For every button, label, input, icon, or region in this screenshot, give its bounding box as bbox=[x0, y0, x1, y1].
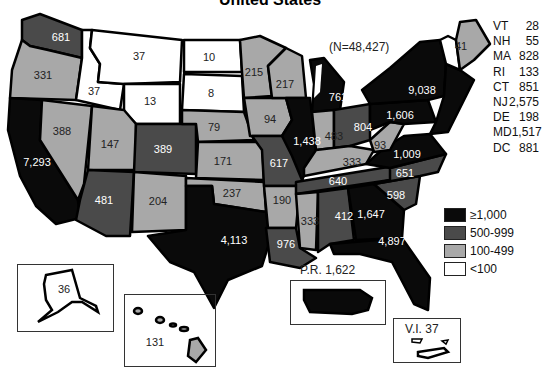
label-WA: 681 bbox=[52, 32, 70, 43]
label-ME: 41 bbox=[455, 41, 467, 52]
label-PR: P.R. 1,622 bbox=[300, 263, 355, 277]
legend-swatch bbox=[444, 262, 466, 276]
ne-row-nj: NJ2,575 bbox=[493, 95, 539, 110]
label-ID: 37 bbox=[88, 86, 100, 97]
label-SD: 8 bbox=[208, 88, 214, 99]
label-WI: 217 bbox=[276, 79, 294, 90]
label-VA: 1,009 bbox=[393, 149, 421, 160]
label-NY: 9,038 bbox=[408, 85, 436, 96]
label-OH: 804 bbox=[354, 122, 372, 133]
label-ND: 10 bbox=[203, 52, 215, 63]
label-FL: 4,897 bbox=[378, 236, 406, 247]
label-MO: 617 bbox=[270, 158, 288, 169]
legend-item-500-999: 500-999 bbox=[444, 224, 514, 242]
label-TN: 640 bbox=[329, 176, 347, 187]
legend-item-ge1000: ≥1,000 bbox=[444, 206, 514, 224]
label-IL: 1,438 bbox=[293, 136, 321, 147]
label-AZ: 481 bbox=[95, 195, 113, 206]
ne-row-ct: CT851 bbox=[493, 80, 539, 95]
label-NM: 204 bbox=[149, 196, 167, 207]
label-OR: 331 bbox=[34, 70, 52, 81]
label-NC: 651 bbox=[396, 168, 414, 179]
ne-row-ri: RI133 bbox=[493, 65, 539, 80]
inset-hawaii bbox=[124, 294, 216, 367]
legend-swatch bbox=[444, 244, 466, 258]
northeast-list: VT28 NH55 MA828 RI133 CT851 NJ2,575 DE19… bbox=[493, 19, 539, 156]
label-GA: 1,647 bbox=[357, 209, 385, 220]
label-KS: 171 bbox=[214, 156, 232, 167]
label-NV: 388 bbox=[53, 126, 71, 137]
ne-row-dc: DC881 bbox=[493, 141, 539, 156]
label-MI: 761 bbox=[329, 92, 347, 103]
label-KY: 333 bbox=[343, 157, 361, 168]
inset-puerto-rico bbox=[290, 280, 386, 325]
label-TX: 4,113 bbox=[221, 235, 248, 246]
label-HI: 131 bbox=[146, 337, 164, 348]
label-AR: 190 bbox=[273, 195, 291, 206]
label-IN: 483 bbox=[325, 131, 343, 142]
label-CO: 389 bbox=[154, 144, 172, 155]
label-OK: 237 bbox=[223, 188, 241, 199]
label-CA: 7,293 bbox=[23, 157, 51, 168]
legend: ≥1,000 500-999 100-499 <100 bbox=[444, 206, 514, 278]
ne-row-ma: MA828 bbox=[493, 49, 539, 64]
legend-item-100-499: 100-499 bbox=[444, 242, 514, 260]
label-PA: 1,606 bbox=[386, 110, 414, 121]
label-SC: 598 bbox=[387, 190, 405, 201]
label-WV: 93 bbox=[374, 140, 386, 151]
label-IA: 94 bbox=[264, 114, 276, 125]
legend-item-lt100: <100 bbox=[444, 260, 514, 278]
label-AK: 36 bbox=[58, 284, 70, 295]
legend-swatch bbox=[444, 226, 466, 240]
label-NE: 79 bbox=[208, 122, 220, 133]
label-UT: 147 bbox=[101, 139, 119, 150]
inset-alaska bbox=[17, 264, 114, 332]
label-MS: 333 bbox=[301, 216, 319, 227]
label-AL: 412 bbox=[335, 211, 353, 222]
legend-swatch bbox=[444, 208, 466, 222]
ne-row-md: MD1,517 bbox=[493, 125, 539, 140]
label-LA: 976 bbox=[277, 239, 295, 250]
total-count: (N=48,427) bbox=[329, 40, 389, 54]
state-AR bbox=[264, 186, 300, 228]
label-MN: 215 bbox=[245, 67, 263, 78]
label-MT: 37 bbox=[133, 51, 145, 62]
label-VI: V.I. 37 bbox=[405, 322, 439, 336]
ne-row-de: DE198 bbox=[493, 110, 539, 125]
label-WY: 13 bbox=[144, 96, 156, 107]
ne-row-nh: NH55 bbox=[493, 34, 539, 49]
ne-row-vt: VT28 bbox=[493, 19, 539, 34]
